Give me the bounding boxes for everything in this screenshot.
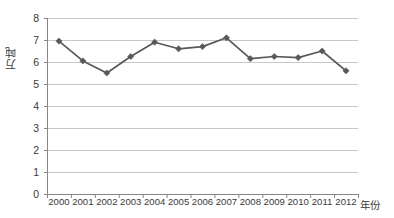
- y-axis-tick-label: 1: [23, 167, 39, 178]
- x-axis-tick-label: 2009: [262, 197, 286, 207]
- x-axis-tick-label: 2005: [167, 197, 191, 207]
- x-axis-tick-label: 2001: [71, 197, 95, 207]
- line-chart: 万吨 年份 0123456782000200120022003200420052…: [0, 0, 394, 218]
- y-axis-tick-label: 4: [23, 101, 39, 112]
- data-point-marker: [271, 53, 277, 59]
- y-axis-tick-label: 2: [23, 145, 39, 156]
- x-axis-tick-label: 2002: [95, 197, 119, 207]
- y-axis-tick-label: 5: [23, 79, 39, 90]
- y-axis-tick-label: 0: [23, 189, 39, 200]
- x-axis-tick-label: 2006: [191, 197, 215, 207]
- chart-plot-area: [0, 0, 394, 218]
- y-axis-tick-label: 3: [23, 123, 39, 134]
- y-axis-tick-label: 7: [23, 35, 39, 46]
- x-axis-title: 年份: [360, 197, 380, 212]
- x-axis-tick-label: 2003: [119, 197, 143, 207]
- x-axis-tick-label: 2011: [310, 197, 334, 207]
- y-axis-tick-label: 6: [23, 57, 39, 68]
- x-axis-tick-label: 2010: [286, 197, 310, 207]
- y-axis-tick-label: 8: [23, 13, 39, 24]
- x-axis-tick-label: 2004: [143, 197, 167, 207]
- x-axis-tick-label: 2000: [47, 197, 71, 207]
- x-axis-tick-label: 2012: [334, 197, 358, 207]
- y-axis-ticks: [44, 19, 47, 195]
- data-point-marker: [199, 44, 205, 50]
- x-axis-tick-label: 2007: [214, 197, 238, 207]
- data-point-marker: [175, 46, 181, 52]
- x-axis-tick-label: 2008: [238, 197, 262, 207]
- data-point-marker: [295, 55, 301, 61]
